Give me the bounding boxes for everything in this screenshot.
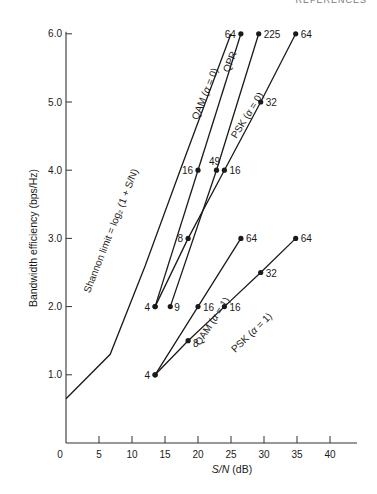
data-point-label: 16 bbox=[229, 302, 241, 313]
data-point-label: 64 bbox=[225, 29, 237, 40]
bandwidth-efficiency-chart: 05101520253035401.02.03.04.05.06.0 41664… bbox=[0, 0, 377, 494]
data-point-marker bbox=[186, 236, 191, 241]
data-point-marker bbox=[238, 31, 243, 36]
data-point-marker bbox=[186, 338, 191, 343]
y-tick-label: 1.0 bbox=[48, 369, 62, 380]
y-tick-label: 6.0 bbox=[48, 28, 62, 39]
data-point-label: 16 bbox=[229, 165, 241, 176]
x-tick-label: 35 bbox=[291, 449, 303, 460]
x-tick-label: 25 bbox=[225, 449, 237, 460]
data-point-marker bbox=[293, 236, 298, 241]
series-lines: 416649492258163264416648163264 bbox=[66, 29, 312, 399]
curve-label: PSK (α = 1) bbox=[229, 310, 274, 354]
x-tick-label: 5 bbox=[96, 449, 102, 460]
data-point-label: 4 bbox=[145, 302, 151, 313]
x-tick-label: 20 bbox=[192, 449, 204, 460]
x-tick-label: 40 bbox=[324, 449, 336, 460]
x-tick-label: 15 bbox=[159, 449, 171, 460]
x-tick-label: 0 bbox=[57, 449, 63, 460]
data-point-marker bbox=[293, 31, 298, 36]
data-point-label: 32 bbox=[266, 268, 278, 279]
data-point-marker bbox=[222, 168, 227, 173]
data-point-marker bbox=[195, 304, 200, 309]
data-point-label: 9 bbox=[174, 302, 180, 313]
data-point-label: 49 bbox=[209, 156, 221, 167]
x-tick-label: 10 bbox=[126, 449, 138, 460]
data-point-label: 4 bbox=[145, 370, 151, 381]
y-tick-label: 2.0 bbox=[48, 301, 62, 312]
data-point-label: 8 bbox=[178, 233, 184, 244]
data-point-label: 225 bbox=[264, 29, 281, 40]
y-tick-label: 3.0 bbox=[48, 233, 62, 244]
x-tick-label: 30 bbox=[258, 449, 270, 460]
data-point-marker bbox=[258, 270, 263, 275]
x-axis-title: S/N (dB) bbox=[212, 463, 252, 475]
data-point-marker bbox=[256, 31, 261, 36]
data-point-label: 32 bbox=[266, 97, 278, 108]
data-point-marker bbox=[238, 236, 243, 241]
data-point-label: 64 bbox=[301, 233, 313, 244]
data-point-label: 64 bbox=[301, 29, 313, 40]
curve-label: Shannon limit = log₂ (1 + S/N) bbox=[81, 167, 140, 294]
y-tick-label: 4.0 bbox=[48, 165, 62, 176]
y-tick-label: 5.0 bbox=[48, 97, 62, 108]
data-point-label: 16 bbox=[182, 165, 194, 176]
data-point-marker bbox=[153, 372, 158, 377]
data-point-marker bbox=[153, 304, 158, 309]
data-point-label: 64 bbox=[246, 233, 258, 244]
y-axis-title: Bandwidth efficiency (bps/Hz) bbox=[27, 169, 39, 307]
data-point-marker bbox=[195, 168, 200, 173]
data-point-marker bbox=[214, 168, 219, 173]
data-point-marker bbox=[168, 304, 173, 309]
